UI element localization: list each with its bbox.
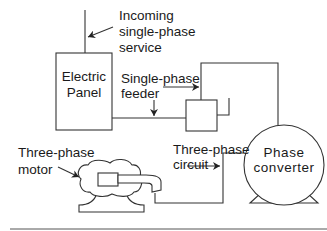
incoming-label-1: Incoming [119,8,174,23]
three-phase-motor [78,159,161,212]
disconnect-box [186,100,217,131]
feeder-label-1: Single-phase [121,71,200,86]
converter-label-1: Phase [264,145,305,160]
motor-label-2: motor [18,162,53,177]
motor-label-1: Three-phase [18,145,95,160]
feeder-label-2: feeder [121,86,160,101]
disconnect-handle [217,98,229,115]
motor-arrow [58,167,79,177]
wiring-diagram: Electric Panel Incoming single-phase ser… [0,0,327,231]
incoming-arrow [88,27,113,37]
converter-label-2: converter [254,160,315,175]
incoming-label-2: single-phase [119,24,196,39]
panel-label-2: Panel [67,85,102,100]
incoming-label-3: service [119,40,162,55]
circuit-label-1: Three-phase [173,142,250,157]
circuit-label-2: circuit [173,157,209,172]
panel-label-1: Electric [62,69,107,84]
